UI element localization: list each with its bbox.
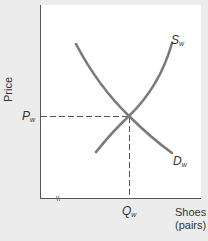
- y-axis-title: Price: [2, 77, 14, 102]
- demand-curve-label: Dw: [173, 155, 187, 168]
- quantity-label-main: Q: [122, 204, 131, 218]
- supply-curve: [96, 43, 172, 152]
- supply-label-sub: w: [179, 40, 184, 47]
- supply-label-main: S: [171, 33, 179, 47]
- price-label-main: P: [22, 109, 30, 123]
- demand-label-sub: w: [182, 161, 187, 168]
- demand-curve: [76, 44, 172, 153]
- x-axis-title: Shoes (pairs): [175, 206, 206, 232]
- quantity-equilibrium-label: Qw: [122, 205, 136, 218]
- supply-curve-label: Sw: [171, 34, 184, 47]
- x-axis-title-line1: Shoes: [175, 206, 206, 219]
- x-axis-title-line2: (pairs): [175, 219, 206, 232]
- price-label-sub: w: [30, 116, 35, 123]
- price-equilibrium-label: Pw: [22, 110, 35, 123]
- quantity-label-sub: w: [131, 211, 136, 218]
- demand-label-main: D: [173, 154, 182, 168]
- y-axis-title-text: Price: [2, 77, 14, 102]
